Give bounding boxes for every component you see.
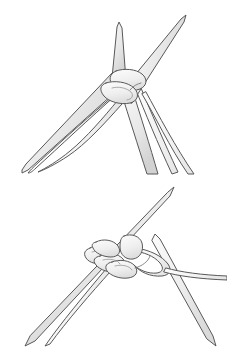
needle-second-diagonal <box>152 234 216 346</box>
stitch-loop-3 <box>106 260 137 278</box>
yarn-strand-trailing <box>45 269 110 346</box>
panel-bottom-canvas <box>0 176 227 348</box>
illustration-panel-step-1 <box>0 0 227 176</box>
knitting-illustration-figure: Step 1 Step 2 Knitting technique two-ste… <box>0 0 227 348</box>
illustration-panel-step-2 <box>0 176 227 348</box>
stitch-loop-4 <box>120 235 143 259</box>
panel-top-canvas <box>0 0 227 176</box>
yarn-strand-left-a <box>28 91 119 173</box>
